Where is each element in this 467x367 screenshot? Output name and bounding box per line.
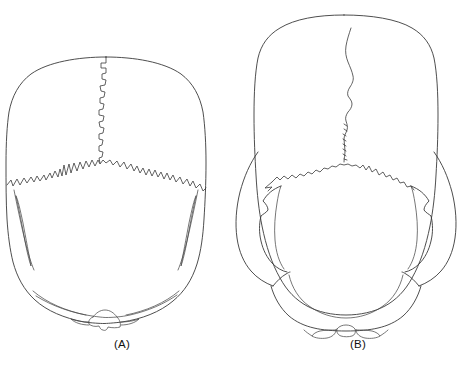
figure-background [0, 0, 467, 367]
skull-illustration-svg [0, 0, 467, 367]
figure-container: (A) (B) [0, 0, 467, 367]
panel-b-caption: (B) [318, 338, 398, 350]
panel-a-caption: (A) [82, 338, 162, 350]
